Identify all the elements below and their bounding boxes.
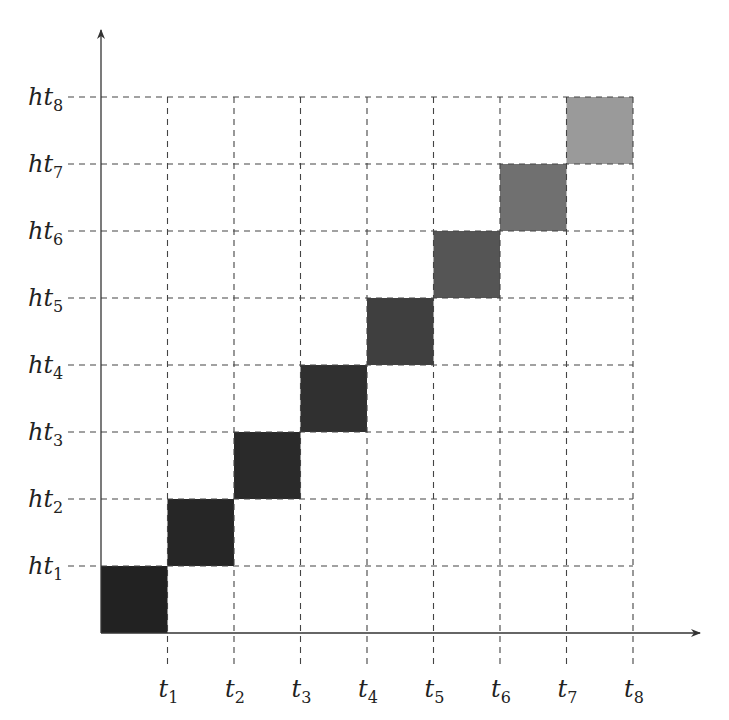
x-tick-label-4: t4 [358,675,378,707]
diagonal-time-grid-diagram: t1t2t3t4t5t6t7t8 ht1ht2ht3ht4ht5ht6ht7ht… [0,0,729,720]
y-tick-label-7: ht7 [28,150,63,182]
x-tick-label-5: t5 [425,675,445,707]
x-tick-label-7: t7 [558,675,578,707]
shaded-cell-6 [434,231,501,298]
y-tick-label-4: ht4 [28,351,63,383]
y-tick-label-1: ht1 [28,552,63,584]
y-tick-label-6: ht6 [28,217,63,249]
y-tick-label-8: ht8 [28,83,63,115]
shaded-cell-4 [301,365,368,432]
x-tick-label-8: t8 [624,675,644,707]
x-tick-label-2: t2 [225,675,245,707]
y-tick-label-5: ht5 [28,284,63,316]
x-tick-label-1: t1 [159,675,179,707]
shaded-cell-2 [168,499,235,566]
shaded-cell-1 [101,566,168,633]
x-tick-label-6: t6 [491,675,511,707]
y-tick-labels: ht1ht2ht3ht4ht5ht6ht7ht8 [28,83,63,584]
shaded-cell-5 [367,298,434,365]
shaded-cell-8 [567,97,634,164]
x-tick-label-3: t3 [292,675,312,707]
y-tick-label-2: ht2 [28,485,63,517]
x-tick-labels: t1t2t3t4t5t6t7t8 [159,675,644,707]
shaded-cell-3 [234,432,301,499]
y-tick-label-3: ht3 [28,418,63,450]
shaded-cell-7 [500,164,567,231]
